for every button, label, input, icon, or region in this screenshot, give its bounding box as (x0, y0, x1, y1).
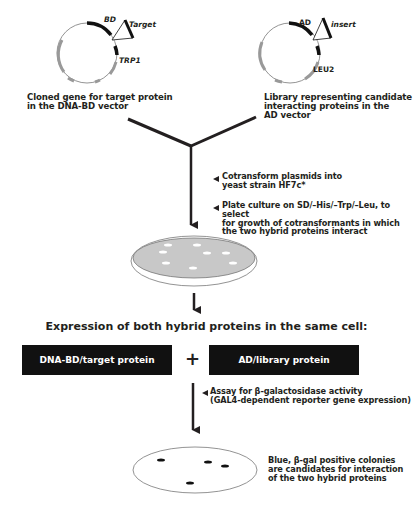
trp1-marker-label: TRP1 (119, 56, 141, 65)
dna-bd-target-protein-box: DNA-BD/target protein (22, 345, 172, 375)
step-assay: Assay for β-galactosidase activity (GAL4… (210, 387, 411, 405)
result-plate (133, 447, 257, 493)
step-cotransform: Cotransform plasmids into yeast strain H… (222, 172, 342, 190)
pointer-icon (213, 205, 219, 211)
library-insert-label: insert (331, 20, 356, 29)
target-insert-label: Target (129, 20, 156, 29)
ad-fusion-label: AD (299, 18, 311, 27)
step-plate-culture: Plate culture on SD/–His/–Trp/–Leu, to s… (222, 201, 413, 236)
leu2-marker-label: LEU2 (313, 65, 334, 74)
bd-vector-caption: Cloned gene for target protein in the DN… (27, 93, 173, 111)
expression-heading: Expression of both hybrid proteins in th… (0, 320, 413, 333)
bd-plasmid-map (57, 20, 133, 83)
result-description: Blue, β-gal positive colonies are candid… (268, 456, 403, 482)
diagram-graphics (0, 0, 413, 514)
pointer-icon (213, 176, 219, 182)
ad-library-protein-box: AD/library protein (209, 345, 359, 375)
pointer-icon (202, 390, 208, 396)
agar-plate (131, 236, 257, 286)
ad-vector-caption: Library representing candidate interacti… (264, 93, 412, 120)
plus-sign: + (185, 348, 200, 369)
bd-fusion-label: BD (104, 15, 116, 24)
